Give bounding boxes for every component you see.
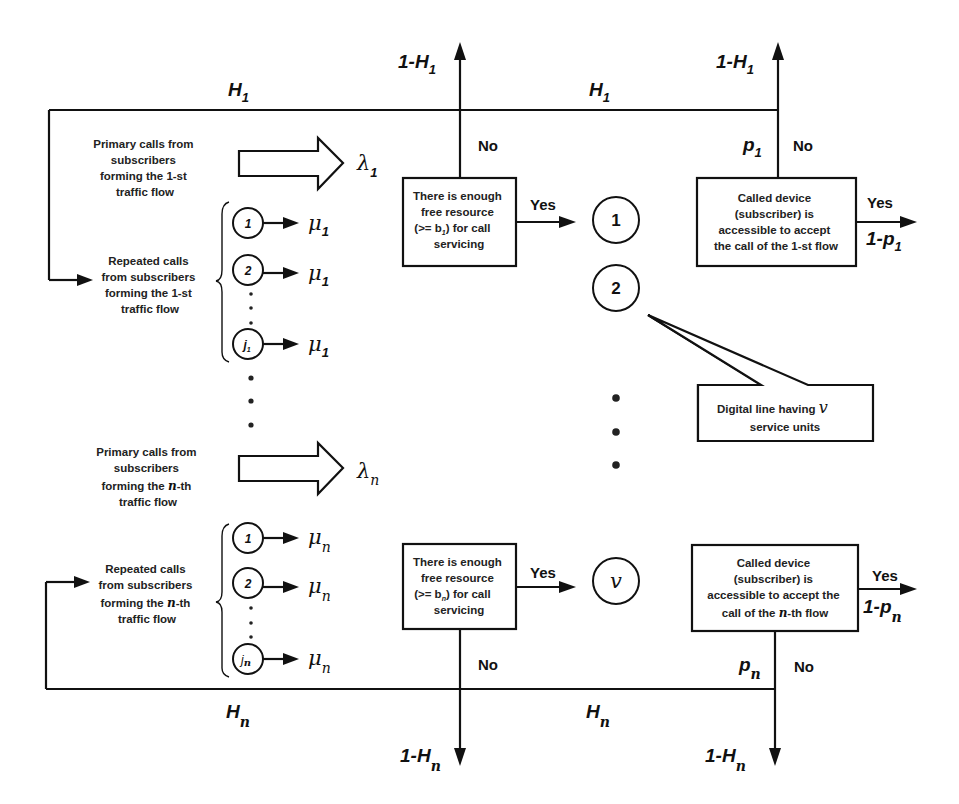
- flow1-resource-check: There is enough free resource (>= b1) fo…: [403, 137, 576, 266]
- svg-text:2: 2: [611, 279, 620, 298]
- flow1-resource-yes: Yes: [530, 196, 556, 213]
- mu-label: μn: [308, 574, 331, 604]
- diagram-canvas: H1 H1 1-H1 1-H1 Primary calls from subsc…: [0, 0, 959, 804]
- flowN-source-2: 2 μn: [233, 568, 331, 604]
- flow1-source-2: 2 μ1: [233, 255, 329, 289]
- flowN-repeated-label: Repeated calls from subscribers forming …: [98, 563, 195, 625]
- flow1-repeated-label: Repeated calls from subscribers forming …: [101, 255, 198, 315]
- mu-label: μ1: [308, 332, 329, 360]
- flowN-repeated-calls: Repeated calls from subscribers forming …: [98, 523, 330, 677]
- mu-label: μn: [308, 525, 331, 555]
- exit-1-h1-left: 1-H1: [398, 51, 436, 77]
- mu-label: μ1: [308, 261, 329, 289]
- svg-text:1: 1: [611, 211, 620, 230]
- flowN-resource-check: There is enough free resource (>= bn) fo…: [403, 544, 576, 673]
- flowN-primary-arrow-icon: [239, 443, 343, 494]
- hn-left-label: Hn: [226, 701, 250, 730]
- flow1-primary-label: Primary calls from subscribers forming t…: [93, 138, 197, 198]
- flow1-primary-calls: Primary calls from subscribers forming t…: [93, 138, 377, 198]
- service-units: 1 2 v: [593, 197, 639, 604]
- bottom-right-exit: 1-Hn: [705, 631, 781, 774]
- flow1-source-j1: j1 μ1: [233, 329, 329, 360]
- flow1-repeated-calls: Repeated calls from subscribers forming …: [101, 202, 328, 362]
- mu-label: μn: [308, 646, 331, 676]
- service-unit-v: v: [593, 558, 639, 604]
- exit-1-hn-right: 1-Hn: [705, 745, 746, 774]
- mu-label: μ1: [308, 211, 329, 239]
- exit-1-hn-left: 1-Hn: [400, 745, 441, 774]
- accept-1-p1-label: 1-p1: [866, 228, 902, 254]
- flowN-called-device-check: Called device (subscriber) is accessible…: [692, 545, 917, 682]
- lambdan-label: λn: [356, 459, 379, 488]
- accept-1-pn-label: 1-pn: [863, 596, 902, 625]
- flowN-source-jn: jn μn: [233, 644, 331, 676]
- flow1-called-no: No: [793, 137, 813, 154]
- p1-label: p1: [742, 134, 762, 160]
- flow1-brace: [216, 202, 229, 362]
- h1-left-label: H1: [228, 79, 249, 105]
- flowN-brace: [216, 524, 229, 677]
- flowN-resource-no: No: [478, 656, 498, 673]
- exit-1-h1-right: 1-H1: [716, 51, 754, 77]
- digital-line-callout: Digital line having v service units: [648, 315, 873, 441]
- flowN-resource-yes: Yes: [530, 564, 556, 581]
- svg-text:1: 1: [245, 217, 252, 231]
- flowN-called-yes: Yes: [872, 567, 898, 584]
- flowN-called-no: No: [794, 658, 814, 675]
- service-unit-1: 1: [593, 197, 639, 243]
- bottom-left-exit: 1-Hn: [400, 629, 466, 774]
- flowN-primary-label: Primary calls from subscribers forming t…: [96, 446, 200, 508]
- lambda1-label: λ1: [356, 151, 378, 180]
- flow1-source-1: 1 μ1: [233, 208, 329, 239]
- flowN-primary-calls: Primary calls from subscribers forming t…: [96, 443, 379, 508]
- svg-text:v: v: [610, 569, 622, 593]
- svg-text:2: 2: [244, 264, 252, 278]
- flow1-primary-arrow-icon: [239, 138, 343, 189]
- flowN-source-1: 1 μn: [233, 523, 331, 555]
- flow1-resource-no: No: [478, 137, 498, 154]
- flow1-called-device-check: Called device (subscriber) is accessible…: [697, 134, 917, 266]
- svg-text:2: 2: [244, 577, 252, 591]
- pn-label: pn: [738, 654, 761, 682]
- h1-right-label: H1: [589, 79, 610, 105]
- hn-right-label: Hn: [586, 701, 610, 730]
- flows-ellipsis: [248, 375, 253, 427]
- service-unit-2: 2: [593, 265, 639, 311]
- flow1-called-yes: Yes: [867, 194, 893, 211]
- svg-text:1: 1: [245, 532, 252, 546]
